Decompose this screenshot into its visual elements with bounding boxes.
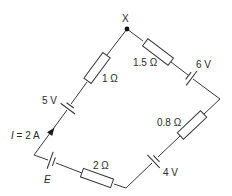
resistor-body xyxy=(80,168,113,187)
wire xyxy=(56,163,82,173)
circuit-diagram: X 1 Ω 5 V 1.5 Ω 6 V 0.8 Ω 4 V 2 Ω E I = … xyxy=(0,0,232,196)
resistor-2ohm-label: 2 Ω xyxy=(93,160,109,171)
cell-6v-label: 6 V xyxy=(196,59,211,70)
wire xyxy=(171,62,188,75)
wire xyxy=(158,136,180,157)
wire xyxy=(114,184,126,188)
current-label: I = 2 A xyxy=(11,130,40,141)
edge-left-upper xyxy=(34,29,127,155)
cell-5v-label: 5 V xyxy=(42,95,57,106)
resistor-body xyxy=(177,111,206,140)
node-x-label: X xyxy=(122,13,129,24)
current-value: = 2 A xyxy=(14,130,40,141)
wire xyxy=(204,99,220,114)
resistor-1-5ohm-label: 1.5 Ω xyxy=(133,57,158,68)
wire xyxy=(107,29,127,55)
cell-short-plate xyxy=(67,103,74,108)
resistor-0-8ohm-label: 0.8 Ω xyxy=(157,117,182,128)
resistor-2ohm xyxy=(80,168,113,187)
cell-long-plate xyxy=(47,152,53,169)
cell-long-plate xyxy=(186,71,197,85)
resistor-1ohm-label: 1 Ω xyxy=(102,73,118,84)
cell-5v xyxy=(61,100,78,114)
cell-e xyxy=(47,152,57,170)
cell-e-label: E xyxy=(44,174,51,185)
cell-long-plate xyxy=(61,103,75,114)
cell-6v xyxy=(183,69,197,86)
wire xyxy=(126,163,152,188)
wire xyxy=(193,79,220,99)
wire xyxy=(127,29,143,41)
cell-4v-label: 4 V xyxy=(163,167,178,178)
wire xyxy=(34,155,48,160)
resistor-0-8ohm xyxy=(177,111,206,140)
wire xyxy=(71,82,87,104)
cell-short-plate xyxy=(52,157,55,165)
node-x-dot xyxy=(125,27,130,32)
